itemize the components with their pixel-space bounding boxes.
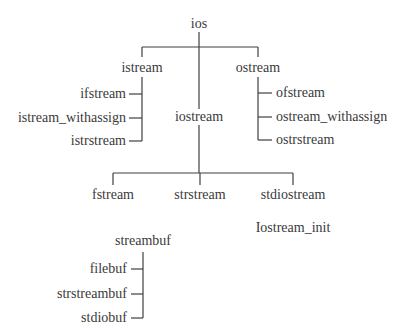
connector-lines bbox=[0, 0, 399, 331]
node-iostream-init: Iostream_init bbox=[256, 220, 331, 236]
node-stdiostream: stdiostream bbox=[261, 187, 326, 203]
node-filebuf: filebuf bbox=[90, 261, 127, 277]
node-strstreambuf: strstreambuf bbox=[57, 286, 127, 302]
node-istream: istream bbox=[121, 60, 162, 76]
node-ostream-withassign: ostream_withassign bbox=[276, 109, 387, 125]
node-streambuf: streambuf bbox=[115, 233, 171, 249]
node-fstream: fstream bbox=[92, 187, 134, 203]
node-ostrstream: ostrstream bbox=[276, 132, 334, 148]
node-iostream: iostream bbox=[173, 109, 225, 125]
class-hierarchy-diagram: ios istream iostream ostream ifstream is… bbox=[0, 0, 399, 331]
node-istrstream: istrstream bbox=[71, 133, 126, 149]
node-strstream: strstream bbox=[174, 187, 225, 203]
node-ostream: ostream bbox=[236, 60, 280, 76]
node-ofstream: ofstream bbox=[276, 85, 325, 101]
node-ios: ios bbox=[191, 16, 207, 32]
node-ifstream: ifstream bbox=[80, 86, 126, 102]
node-istream-withassign: istream_withassign bbox=[18, 110, 126, 126]
node-stdiobuf: stdiobuf bbox=[81, 310, 127, 326]
